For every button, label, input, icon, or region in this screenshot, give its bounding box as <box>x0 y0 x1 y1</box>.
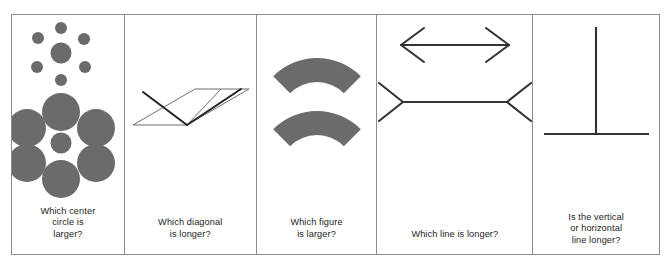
vertical-horizontal-svg <box>533 15 658 200</box>
large-surround-circle <box>42 160 80 198</box>
caption-line: circle is <box>16 217 120 228</box>
caption-line: is longer? <box>129 229 252 240</box>
top-left-fin-lower <box>401 45 424 62</box>
bottom-right-fin-lower <box>507 102 531 121</box>
caption-line: Which diagonal <box>129 217 252 228</box>
top-left-fin-upper <box>401 28 424 45</box>
small-surround-circle <box>79 61 91 73</box>
caption-line: or horizontal <box>537 223 655 234</box>
large-surround-circle <box>77 109 115 147</box>
large-surround-circle <box>12 144 46 182</box>
right-diagonal <box>187 89 241 125</box>
parallelogram-divider-line <box>187 89 221 125</box>
panel-table: Which center circle is larger? Which dia… <box>11 14 660 255</box>
bottom-left-fin-upper <box>379 83 403 102</box>
jastrow-upper-arc <box>273 58 361 93</box>
caption-muller-lyer: Which line is longer? <box>377 229 532 240</box>
large-surround-circle <box>12 109 46 147</box>
small-surround-circle <box>55 22 67 34</box>
caption-sander: Which diagonal is longer? <box>125 217 256 240</box>
jastrow-lower-arc <box>273 111 361 146</box>
caption-line: is larger? <box>261 229 373 240</box>
muller-lyer-svg <box>377 15 532 200</box>
panel-sander: Which diagonal is longer? <box>125 15 257 254</box>
muller-lyer-figure <box>377 15 532 200</box>
ebbinghaus-top-cluster <box>31 22 91 86</box>
panel-vertical-horizontal: Is the vertical or horizontal line longe… <box>533 15 659 254</box>
sander-figure <box>125 15 256 200</box>
caption-vertical-horizontal: Is the vertical or horizontal line longe… <box>533 212 659 246</box>
caption-ebbinghaus: Which center circle is larger? <box>12 206 124 240</box>
small-surround-circle <box>55 74 67 86</box>
center-circle-top <box>51 43 72 64</box>
center-circle-bottom <box>51 133 72 154</box>
vertical-horizontal-figure <box>533 15 659 200</box>
top-right-fin-lower <box>486 45 509 62</box>
caption-line: Which figure <box>261 217 373 228</box>
bottom-right-fin-upper <box>507 83 531 102</box>
ebbinghaus-bottom-cluster <box>12 93 115 198</box>
panel-jastrow: Which figure is larger? <box>257 15 378 254</box>
caption-line: Is the vertical <box>537 212 655 223</box>
jastrow-svg <box>257 15 377 200</box>
ebbinghaus-svg <box>12 15 124 200</box>
illusions-figure: Which center circle is larger? Which dia… <box>0 0 671 271</box>
jastrow-figure <box>257 15 377 200</box>
small-surround-circle <box>31 61 43 73</box>
large-surround-circle <box>77 144 115 182</box>
caption-line: line longer? <box>537 235 655 246</box>
caption-jastrow: Which figure is larger? <box>257 217 377 240</box>
top-right-fin-upper <box>486 28 509 45</box>
caption-line: Which center <box>16 206 120 217</box>
sander-svg <box>125 15 256 200</box>
small-surround-circle <box>32 32 44 44</box>
large-surround-circle <box>42 93 80 131</box>
small-surround-circle <box>78 33 90 45</box>
ebbinghaus-figure <box>12 15 124 200</box>
panel-ebbinghaus: Which center circle is larger? <box>12 15 125 254</box>
panel-muller-lyer: Which line is longer? <box>377 15 533 254</box>
caption-line: larger? <box>16 229 120 240</box>
bottom-left-fin-lower <box>379 102 403 121</box>
caption-line: Which line is longer? <box>381 229 528 240</box>
